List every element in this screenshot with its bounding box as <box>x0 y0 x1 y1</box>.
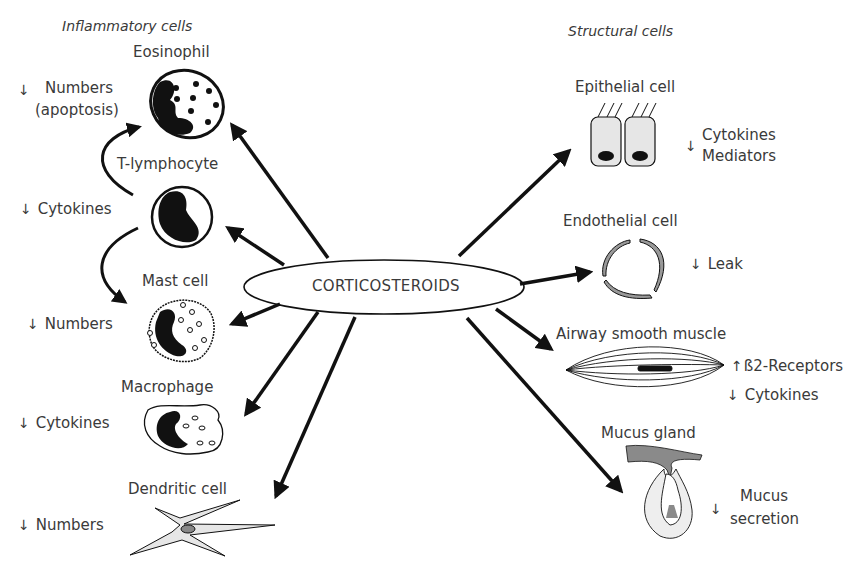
decrease-arrow-icon: ↓ <box>685 137 697 156</box>
smooth-muscle-effect-receptors: ↑ß2-Receptors <box>731 357 843 376</box>
decrease-arrow-icon: ↓ <box>27 315 39 334</box>
macrophage-label: Macrophage <box>121 378 213 396</box>
endothelial-effect: ↓Leak <box>690 255 743 274</box>
endothelial-cell-icon <box>603 239 664 298</box>
endothelial-cell-label: Endothelial cell <box>563 212 678 230</box>
dendritic-cell-label: Dendritic cell <box>128 480 227 498</box>
decrease-arrow-icon: ↓ <box>727 386 739 405</box>
decrease-arrow-icon: ↓ <box>20 200 32 219</box>
mast-cell-effect: ↓Numbers <box>27 315 113 334</box>
arrow-tcell-to-mast <box>102 228 138 302</box>
t-lymphocyte-effect: ↓Cytokines <box>20 200 112 219</box>
effect-line: Cytokines <box>38 200 112 218</box>
decrease-arrow-icon: ↓ <box>18 414 30 433</box>
inflammatory-cells-heading: Inflammatory cells <box>62 17 192 35</box>
effect-line: secretion <box>730 510 799 529</box>
arrow-to-endothelial <box>520 272 590 284</box>
mast-cell-label: Mast cell <box>142 272 208 290</box>
dendritic-cell-icon <box>130 500 275 556</box>
effect-line: (apoptosis) <box>35 101 119 120</box>
mucus-gland-icon <box>626 445 702 538</box>
effect-line: Numbers <box>45 315 113 333</box>
effect-line: Cytokines <box>36 414 110 432</box>
effect-line: Cytokines <box>745 386 819 404</box>
hub-label: CORTICOSTEROIDS <box>312 277 460 295</box>
epithelial-cell-label: Epithelial cell <box>575 78 675 96</box>
arrow-to-dendritic-cell <box>276 317 355 496</box>
macrophage-effect: ↓Cytokines <box>18 414 110 433</box>
arrow-to-smooth-muscle <box>496 309 551 349</box>
smooth-muscle-label: Airway smooth muscle <box>556 325 726 343</box>
arrow-to-epithelial <box>459 151 569 256</box>
increase-arrow-icon: ↑ <box>731 357 743 376</box>
macrophage-icon <box>144 405 222 454</box>
arrow-to-mast-cell <box>232 304 280 324</box>
effect-line: Numbers <box>36 516 104 534</box>
arrow-to-eosinophil <box>232 125 328 258</box>
eosinophil-label: Eosinophil <box>133 43 210 61</box>
arrow-to-macrophage <box>246 312 318 414</box>
t-lymphocyte-label: T-lymphocyte <box>117 155 218 173</box>
effect-line: Mediators <box>702 147 776 166</box>
decrease-arrow-icon: ↓ <box>18 81 30 100</box>
decrease-arrow-icon: ↓ <box>18 516 30 535</box>
t-lymphocyte-icon <box>152 187 212 247</box>
decrease-arrow-icon: ↓ <box>710 500 722 519</box>
mucus-gland-label: Mucus gland <box>601 424 696 442</box>
epithelial-cell-icon <box>591 103 656 166</box>
effect-line: Leak <box>708 255 743 273</box>
decrease-arrow-icon: ↓ <box>690 255 702 274</box>
mast-cell-icon <box>148 300 215 361</box>
arrow-to-t-lymphocyte <box>228 228 284 265</box>
smooth-muscle-effect-cytokines: ↓Cytokines <box>727 386 819 405</box>
eosinophil-effect: ↓Numbers (apoptosis) <box>18 81 36 100</box>
effect-line: Mucus <box>740 487 788 506</box>
effect-line: Numbers <box>45 79 113 98</box>
smooth-muscle-icon <box>566 347 724 387</box>
eosinophil-icon <box>140 58 235 149</box>
structural-cells-heading: Structural cells <box>568 22 673 40</box>
effect-line: Cytokines <box>702 126 776 145</box>
dendritic-cell-effect: ↓Numbers <box>18 516 104 535</box>
effect-line: ß2-Receptors <box>744 357 843 375</box>
